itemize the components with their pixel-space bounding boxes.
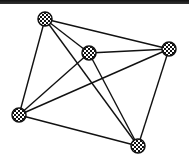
edge-n2-n4: [19, 53, 89, 115]
node-n2: [82, 46, 96, 60]
edges-group: [19, 19, 169, 146]
edge-n1-n4: [19, 19, 45, 115]
node-n5: [131, 139, 145, 153]
edge-n3-n5: [138, 49, 169, 146]
graph-diagram: [0, 0, 189, 161]
edge-n2-n3: [89, 49, 169, 53]
node-n4: [12, 108, 26, 122]
edge-n2-n5: [89, 53, 138, 146]
node-n1: [38, 12, 52, 26]
edge-n4-n5: [19, 115, 138, 146]
node-n3: [162, 42, 176, 56]
